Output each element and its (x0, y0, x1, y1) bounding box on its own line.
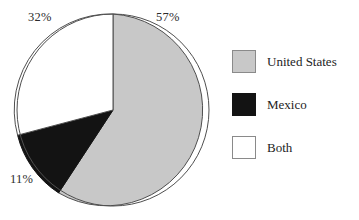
legend-swatch-mexico (232, 93, 256, 116)
legend-swatch-both (232, 136, 256, 159)
legend-item-mexico[interactable]: Mexico (232, 83, 359, 126)
legend-label-mexico: Mexico (267, 97, 307, 113)
slice-label-united-states: 57% (156, 10, 180, 25)
chart-legend: United States Mexico Both (232, 40, 359, 169)
legend-item-united-states[interactable]: United States (232, 40, 359, 83)
pie-plot-area: 57% 11% 32% (0, 0, 230, 220)
legend-swatch-united-states (232, 50, 256, 73)
legend-label-united-states: United States (267, 54, 337, 70)
pie-chart-figure: 57% 11% 32% United States Mexico Both (0, 0, 359, 220)
legend-item-both[interactable]: Both (232, 126, 359, 169)
pie-svg (0, 0, 230, 220)
slice-label-mexico: 11% (10, 172, 33, 187)
legend-label-both: Both (267, 140, 292, 156)
slice-label-both: 32% (28, 10, 52, 25)
